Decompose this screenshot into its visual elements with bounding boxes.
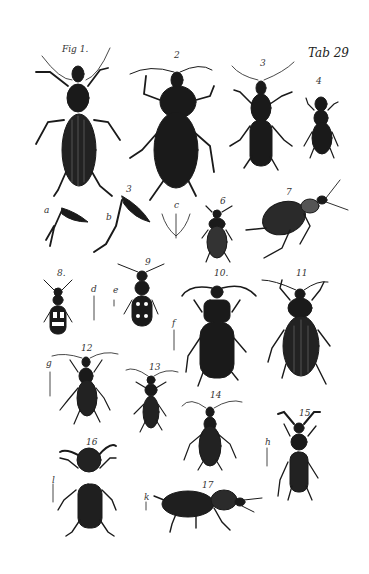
beetle-fig-12 — [52, 353, 118, 424]
beetle-fig-9 — [118, 264, 164, 326]
beetle-fig-6 — [202, 206, 232, 262]
beetle-fig-16 — [58, 445, 116, 536]
figure-label: Fig 1. — [62, 44, 88, 54]
beetle-fig-10 — [182, 286, 256, 386]
beetle-fig-8 — [44, 280, 72, 334]
beetle-fig-2 — [130, 66, 214, 200]
figure-label: 14 — [210, 390, 221, 400]
figure-label: 12 — [81, 343, 92, 353]
plate-title: Tab 29 — [308, 46, 349, 60]
figure-label: h — [265, 437, 271, 447]
figure-label: g — [46, 358, 52, 368]
figure-label: a — [44, 205, 49, 215]
beetle-fig-11 — [262, 280, 330, 384]
figure-label: 6 — [220, 196, 226, 206]
figure-label: d — [91, 284, 97, 294]
figure-label: 3 — [260, 58, 266, 68]
figure-label: f — [172, 318, 175, 328]
figure-label: 4 — [316, 76, 322, 86]
detail-c — [162, 214, 190, 238]
leg-detail-b — [94, 196, 150, 252]
figure-label: l — [52, 475, 55, 485]
figure-label: 9 — [145, 257, 151, 267]
figure-label: 2 — [174, 50, 180, 60]
beetle-fig-13 — [126, 369, 178, 432]
beetle-engravings — [0, 0, 369, 574]
figure-label: k — [144, 492, 149, 502]
figure-label: c — [174, 200, 179, 210]
beetle-fig-4 — [304, 97, 338, 158]
figure-label: 11 — [296, 268, 307, 278]
beetle-fig-15 — [278, 412, 320, 500]
figure-label: 10. — [214, 268, 228, 278]
figure-label: 13 — [149, 362, 160, 372]
beetle-fig-3 — [230, 62, 294, 170]
figure-label: 3 — [126, 184, 132, 194]
beetle-fig-7 — [246, 180, 348, 258]
figure-label: 7 — [286, 187, 292, 197]
figure-label: 15 — [299, 408, 310, 418]
engraved-plate: Tab 29 Fig 1.234ab3c678.de910.11f12g1314… — [0, 0, 369, 574]
figure-label: 8. — [57, 268, 66, 278]
beetle-fig-1 — [36, 48, 120, 196]
figure-label: 16 — [86, 437, 97, 447]
figure-label: 17 — [202, 480, 213, 490]
figure-label: b — [106, 212, 112, 222]
beetle-fig-14 — [182, 401, 242, 470]
leg-detail-a — [46, 208, 88, 246]
beetle-fig-17 — [154, 490, 262, 532]
figure-label: e — [113, 285, 118, 295]
